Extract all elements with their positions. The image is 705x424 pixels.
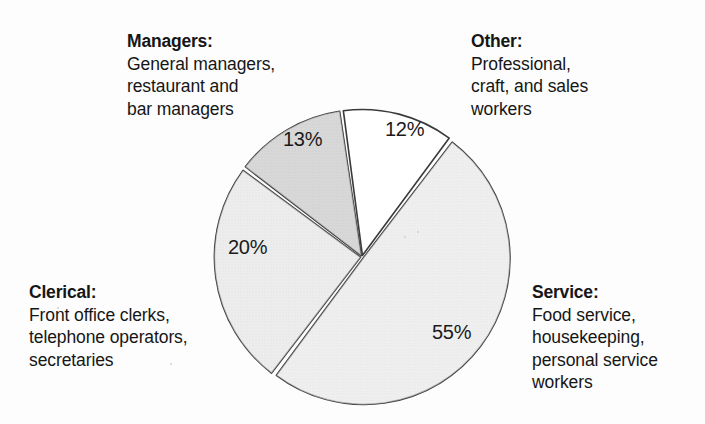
callout-clerical-line1: Front office clerks,: [29, 304, 188, 327]
slice-label-service: 55%: [432, 321, 471, 344]
callout-clerical-caption: Clerical:: [29, 281, 188, 304]
scan-speckle: [57, 307, 59, 309]
callout-other-line2: craft, and sales: [471, 75, 588, 98]
callout-service-line1: Food service,: [532, 304, 658, 327]
callout-clerical: Clerical: Front office clerks, telephone…: [29, 281, 188, 371]
callout-managers-line1: General managers,: [127, 53, 275, 76]
callout-managers-caption: Managers:: [127, 30, 275, 53]
callout-service-caption: Service:: [532, 281, 658, 304]
callout-managers: Managers: General managers, restaurant a…: [127, 30, 275, 120]
callout-service: Service: Food service, housekeeping, per…: [532, 281, 658, 394]
slice-label-clerical: 20%: [228, 236, 267, 259]
callout-managers-line2: restaurant and: [127, 75, 275, 98]
callout-service-line4: workers: [532, 371, 658, 394]
scan-speckle: [318, 207, 320, 209]
callout-clerical-line2: telephone operators,: [29, 326, 188, 349]
callout-other-line1: Professional,: [471, 53, 588, 76]
callout-other: Other: Professional, craft, and sales wo…: [471, 30, 588, 120]
callout-service-line2: housekeeping,: [532, 326, 658, 349]
pie-chart-page: Managers: General managers, restaurant a…: [0, 0, 705, 424]
scan-speckle: [170, 363, 172, 365]
callout-service-line3: personal service: [532, 349, 658, 372]
scan-speckle: [417, 231, 419, 233]
scan-speckle: [404, 236, 406, 238]
callout-other-caption: Other:: [471, 30, 588, 53]
callout-clerical-line3: secretaries: [29, 349, 188, 372]
scan-speckle: [132, 60, 134, 62]
slice-label-other: 12%: [385, 118, 424, 141]
slice-label-managers: 13%: [283, 128, 322, 151]
